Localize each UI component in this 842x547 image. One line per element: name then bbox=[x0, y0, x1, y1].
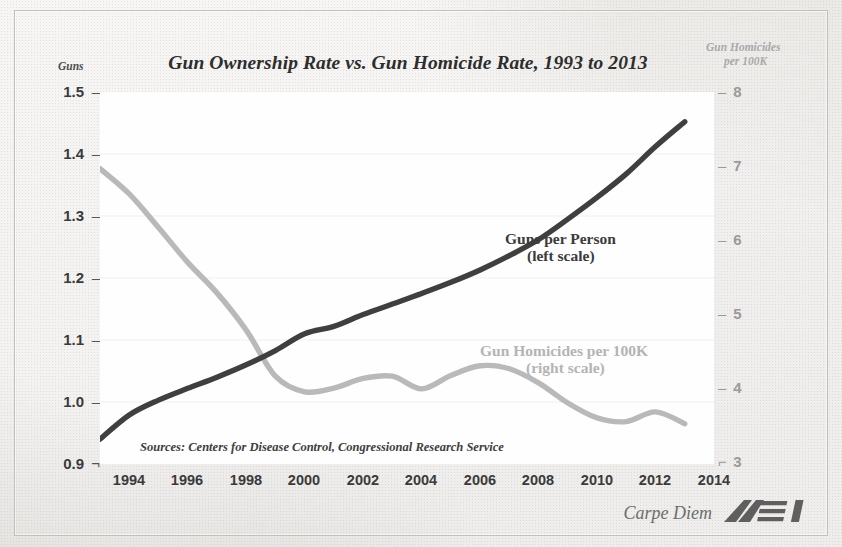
ytick-right-3: – 6 bbox=[718, 231, 778, 248]
right-axis-title: Gun Homicides per 100K bbox=[706, 40, 826, 68]
xtick-2000: 2000 bbox=[272, 472, 336, 488]
ytick-left-6: 1.0– bbox=[40, 393, 100, 410]
xtick-2006: 2006 bbox=[448, 472, 512, 488]
right-axis-title-line1: Gun Homicides bbox=[706, 40, 826, 54]
credit-carpe-diem: Carpe Diem bbox=[624, 503, 713, 524]
series-annotation-guns-line2: (left scale) bbox=[527, 247, 705, 264]
xtick-2014: 2014 bbox=[682, 472, 746, 488]
sources-note: Sources: Centers for Disease Control, Co… bbox=[140, 440, 504, 455]
chart-figure: Gun Ownership Rate vs. Gun Homicide Rate… bbox=[0, 0, 842, 547]
xtick-2012: 2012 bbox=[623, 472, 687, 488]
ytick-left-7: 0.9¬ bbox=[40, 455, 100, 472]
xtick-2010: 2010 bbox=[565, 472, 629, 488]
left-axis-title: Guns bbox=[58, 60, 84, 72]
ytick-left-5: 1.1– bbox=[40, 331, 100, 348]
ytick-right-1: – 8 bbox=[718, 83, 778, 100]
ytick-left-1: 1.5– bbox=[40, 83, 100, 100]
aei-logo bbox=[722, 498, 808, 526]
series-line-guns-per-person bbox=[100, 122, 685, 439]
series-annotation-homicides: Gun Homicides per 100K (right scale) bbox=[480, 342, 730, 376]
xtick-2002: 2002 bbox=[331, 472, 395, 488]
series-annotation-homicides-line1: Gun Homicides per 100K bbox=[480, 342, 730, 359]
series-annotation-homicides-line2: (right scale) bbox=[526, 359, 730, 376]
plot-area bbox=[100, 92, 714, 464]
xtick-1998: 1998 bbox=[214, 472, 278, 488]
ytick-right-4: – 5 bbox=[718, 305, 778, 322]
ytick-right-2: – 7 bbox=[718, 157, 778, 174]
ytick-right-5: – 4 bbox=[718, 379, 778, 396]
ytick-left-4: 1.2– bbox=[40, 269, 100, 286]
ytick-left-3: 1.3– bbox=[40, 207, 100, 224]
plot-svg bbox=[100, 92, 714, 464]
xtick-2008: 2008 bbox=[506, 472, 570, 488]
series-annotation-guns: Guns per Person (left scale) bbox=[505, 230, 705, 264]
xtick-1994: 1994 bbox=[97, 472, 161, 488]
xtick-2004: 2004 bbox=[389, 472, 453, 488]
series-annotation-guns-line1: Guns per Person bbox=[505, 230, 705, 247]
xtick-1996: 1996 bbox=[155, 472, 219, 488]
chart-title: Gun Ownership Rate vs. Gun Homicide Rate… bbox=[118, 52, 698, 74]
ytick-left-2: 1.4– bbox=[40, 145, 100, 162]
ytick-right-6: ⌐ 3 bbox=[718, 453, 778, 470]
right-axis-title-line2: per 100K bbox=[724, 54, 826, 68]
